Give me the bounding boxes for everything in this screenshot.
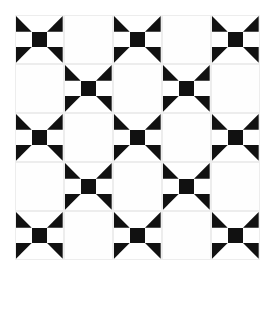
patch-triangle-top-right [96, 163, 112, 179]
quilt-empty-cell-r2-c3 [113, 64, 162, 113]
patch-plain-middle-left [65, 179, 81, 195]
quilt-block-cell-r3-c3[interactable] [113, 113, 162, 162]
half-square-triangle-icon [96, 163, 112, 179]
pinwheel-churn-dash-block[interactable] [114, 114, 161, 161]
patch-plain-middle-right [145, 228, 161, 244]
quilt-block-cell-r5-c5[interactable] [211, 211, 260, 260]
patch-triangle-bottom-right [47, 47, 63, 63]
quilt-block-cell-r5-c1[interactable] [15, 211, 64, 260]
quilt-block-cell-r1-c3[interactable] [113, 15, 162, 64]
half-square-triangle-icon [16, 16, 32, 32]
quilt-block-cell-r2-c4[interactable] [162, 64, 211, 113]
half-square-triangle-icon [163, 96, 179, 112]
half-square-triangle-icon [16, 212, 32, 228]
patch-triangle-bottom-right [243, 145, 259, 161]
half-square-triangle-icon [145, 212, 161, 228]
patch-plain-top-center [179, 65, 195, 81]
patch-plain-middle-left [114, 228, 130, 244]
half-square-triangle-icon [114, 212, 130, 228]
half-square-triangle-icon [16, 145, 32, 161]
patch-triangle-bottom-right [243, 243, 259, 259]
patch-plain-middle-right [96, 179, 112, 195]
pinwheel-churn-dash-block[interactable] [212, 16, 259, 63]
patch-center-square [32, 32, 48, 48]
half-square-triangle-icon [114, 243, 130, 259]
patch-triangle-bottom-left [212, 145, 228, 161]
quilt-empty-cell-r1-c2 [64, 15, 113, 64]
patch-plain-middle-right [145, 32, 161, 48]
patch-plain-middle-right [96, 81, 112, 97]
quilt-empty-cell-r4-c1 [15, 162, 64, 211]
patch-triangle-bottom-left [114, 145, 130, 161]
half-square-triangle-icon [47, 145, 63, 161]
patch-triangle-top-left [114, 16, 130, 32]
patch-plain-middle-right [243, 130, 259, 146]
patch-triangle-top-right [243, 16, 259, 32]
pinwheel-churn-dash-block[interactable] [212, 212, 259, 259]
patch-triangle-bottom-left [163, 96, 179, 112]
quilt-block-cell-r5-c3[interactable] [113, 211, 162, 260]
half-square-triangle-icon [243, 114, 259, 130]
patch-plain-top-center [32, 114, 48, 130]
pinwheel-churn-dash-block[interactable] [163, 163, 210, 210]
patch-plain-bottom-center [32, 243, 48, 259]
quilt-empty-cell-r2-c1 [15, 64, 64, 113]
half-square-triangle-icon [243, 47, 259, 63]
patch-triangle-top-right [145, 212, 161, 228]
half-square-triangle-icon [212, 212, 228, 228]
patch-center-square [81, 81, 97, 97]
patch-plain-top-center [130, 16, 146, 32]
patch-triangle-bottom-left [65, 194, 81, 210]
patch-triangle-bottom-right [47, 243, 63, 259]
pinwheel-churn-dash-block[interactable] [16, 212, 63, 259]
patch-plain-top-center [130, 212, 146, 228]
patch-plain-middle-left [163, 81, 179, 97]
patch-center-square [228, 228, 244, 244]
patch-center-square [228, 130, 244, 146]
patch-plain-middle-right [47, 32, 63, 48]
patch-triangle-top-right [96, 65, 112, 81]
patch-plain-middle-left [114, 32, 130, 48]
half-square-triangle-icon [194, 65, 210, 81]
pinwheel-churn-dash-block[interactable] [114, 16, 161, 63]
half-square-triangle-icon [16, 243, 32, 259]
pinwheel-churn-dash-block[interactable] [163, 65, 210, 112]
half-square-triangle-icon [212, 145, 228, 161]
patch-plain-middle-right [194, 81, 210, 97]
pinwheel-churn-dash-block[interactable] [65, 163, 112, 210]
quilt-empty-cell-r5-c4 [162, 211, 211, 260]
patch-plain-top-center [228, 16, 244, 32]
quilt-block-cell-r2-c2[interactable] [64, 64, 113, 113]
half-square-triangle-icon [47, 47, 63, 63]
half-square-triangle-icon [212, 114, 228, 130]
quilt-block-cell-r1-c5[interactable] [211, 15, 260, 64]
patch-plain-top-center [228, 212, 244, 228]
patch-triangle-top-right [47, 114, 63, 130]
pinwheel-churn-dash-block[interactable] [114, 212, 161, 259]
patch-plain-bottom-center [32, 47, 48, 63]
pinwheel-churn-dash-block[interactable] [16, 114, 63, 161]
patch-plain-middle-left [16, 228, 32, 244]
pinwheel-churn-dash-block[interactable] [16, 16, 63, 63]
quilt-block-cell-r1-c1[interactable] [15, 15, 64, 64]
quilt-block-cell-r3-c5[interactable] [211, 113, 260, 162]
half-square-triangle-icon [114, 47, 130, 63]
quilt-block-cell-r4-c4[interactable] [162, 162, 211, 211]
patch-plain-middle-right [243, 32, 259, 48]
patch-triangle-bottom-left [114, 47, 130, 63]
patch-triangle-bottom-left [163, 194, 179, 210]
patch-triangle-bottom-right [96, 96, 112, 112]
pinwheel-churn-dash-block[interactable] [212, 114, 259, 161]
patch-plain-bottom-center [130, 145, 146, 161]
quilt-canvas [0, 0, 272, 318]
pinwheel-churn-dash-block[interactable] [65, 65, 112, 112]
patch-plain-bottom-center [81, 96, 97, 112]
patch-plain-top-center [130, 114, 146, 130]
quilt-block-cell-r4-c2[interactable] [64, 162, 113, 211]
half-square-triangle-icon [145, 243, 161, 259]
quilt-block-cell-r3-c1[interactable] [15, 113, 64, 162]
half-square-triangle-icon [243, 16, 259, 32]
half-square-triangle-icon [145, 47, 161, 63]
half-square-triangle-icon [114, 114, 130, 130]
patch-triangle-bottom-right [194, 96, 210, 112]
